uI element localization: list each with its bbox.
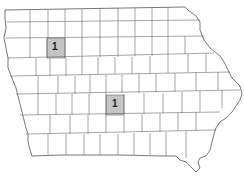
county-count-label-2: 1 xyxy=(112,98,118,109)
state-outline xyxy=(4,7,242,172)
map-svg xyxy=(0,0,244,182)
county-count-label-1: 1 xyxy=(52,41,58,52)
